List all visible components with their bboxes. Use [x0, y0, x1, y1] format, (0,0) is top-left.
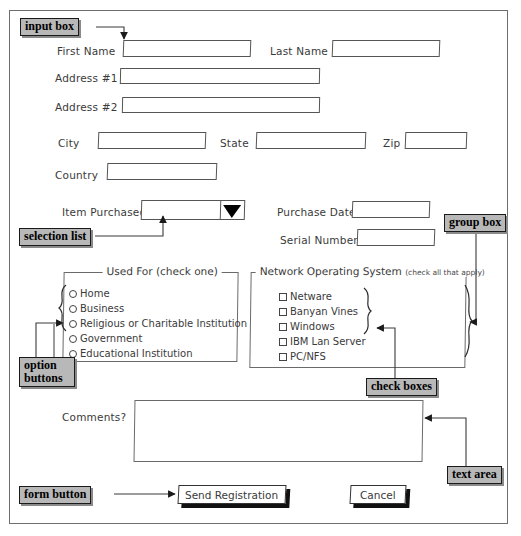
callout-input-box: input box: [20, 18, 79, 36]
checkbox-option-pc-nfs[interactable]: PC/NFS: [279, 351, 326, 362]
label-item-purchased: Item Purchased: [62, 206, 146, 218]
label-zip: Zip: [383, 137, 400, 149]
input-zip[interactable]: [405, 132, 468, 149]
callout-option-buttons-line2: buttons: [24, 372, 70, 385]
radio-option-government[interactable]: Government: [69, 333, 142, 344]
checkbox-label-ibm-lan-server: IBM Lan Server: [290, 336, 366, 347]
label-country: Country: [55, 169, 98, 181]
callout-check-boxes: check boxes: [366, 378, 437, 396]
callout-form-button: form button: [19, 486, 91, 504]
callout-input-box-label: input box: [25, 19, 74, 33]
label-city: City: [58, 137, 79, 149]
radio-label-home: Home: [80, 288, 110, 299]
input-last-name[interactable]: [332, 40, 441, 57]
radio-option-religious[interactable]: Religious or Charitable Institution: [69, 318, 247, 329]
select-divider: [220, 201, 222, 219]
callout-group-box: group box: [444, 214, 506, 232]
input-country[interactable]: [107, 163, 218, 180]
label-comments: Comments?: [62, 411, 126, 423]
radio-button-icon[interactable]: [69, 290, 77, 298]
input-purchase-date[interactable]: [352, 201, 431, 218]
input-first-name[interactable]: [123, 40, 252, 57]
radio-option-educational[interactable]: Educational Institution: [69, 348, 192, 359]
label-serial-number: Serial Number: [280, 234, 358, 246]
callout-option-buttons-line1: option: [24, 359, 70, 372]
label-last-name: Last Name: [270, 45, 328, 57]
checkbox-option-windows[interactable]: Windows: [279, 321, 335, 332]
checkbox-icon[interactable]: [279, 353, 287, 361]
group-title-network-os-hint: (check all that apply): [405, 268, 485, 277]
group-title-used-for-hint: (check one): [156, 265, 218, 277]
input-address-2[interactable]: [122, 97, 320, 113]
callout-text-area-label: text area: [452, 467, 497, 481]
group-title-used-for: Used For (check one): [103, 265, 222, 277]
checkbox-option-banyan-vines[interactable]: Banyan Vines: [279, 306, 358, 317]
label-address-2: Address #2: [55, 101, 118, 113]
cancel-button-label: Cancel: [360, 489, 396, 501]
callout-text-area: text area: [447, 466, 502, 484]
label-address-1: Address #1: [55, 72, 118, 84]
label-first-name: First Name: [57, 45, 115, 57]
mockup-canvas: First Name Last Name Address #1 Address …: [0, 0, 521, 536]
checkbox-label-banyan-vines: Banyan Vines: [290, 306, 358, 317]
radio-label-business: Business: [80, 303, 124, 314]
radio-button-icon[interactable]: [69, 320, 77, 328]
label-purchase-date: Purchase Date: [277, 206, 356, 218]
radio-button-icon[interactable]: [69, 335, 77, 343]
group-title-used-for-main: Used For: [107, 265, 153, 277]
radio-label-educational: Educational Institution: [80, 348, 192, 359]
input-city[interactable]: [98, 132, 207, 149]
textarea-comments[interactable]: [134, 400, 424, 462]
input-state[interactable]: [256, 132, 367, 149]
checkbox-option-ibm-lan-server[interactable]: IBM Lan Server: [279, 336, 366, 347]
radio-option-business[interactable]: Business: [69, 303, 124, 314]
checkbox-icon[interactable]: [279, 308, 287, 316]
callout-selection-list: selection list: [19, 228, 91, 246]
checkbox-label-netware: Netware: [290, 291, 332, 302]
radio-label-religious: Religious or Charitable Institution: [80, 318, 247, 329]
label-state: State: [220, 137, 249, 149]
callout-option-buttons: option buttons: [19, 357, 75, 387]
dropdown-arrow-icon[interactable]: [223, 205, 241, 218]
group-title-network-os-main: Network Operating System: [260, 265, 402, 277]
send-registration-button-label: Send Registration: [185, 489, 278, 501]
radio-option-home[interactable]: Home: [69, 288, 110, 299]
radio-button-icon[interactable]: [69, 305, 77, 313]
callout-check-boxes-label: check boxes: [371, 379, 432, 393]
radio-label-government: Government: [80, 333, 142, 344]
checkbox-icon[interactable]: [279, 323, 287, 331]
select-item-purchased[interactable]: [141, 200, 246, 220]
checkbox-option-netware[interactable]: Netware: [279, 291, 332, 302]
callout-selection-list-label: selection list: [24, 229, 86, 243]
send-registration-button[interactable]: Send Registration: [178, 485, 287, 504]
checkbox-label-windows: Windows: [290, 321, 335, 332]
callout-group-box-label: group box: [449, 215, 501, 229]
group-title-network-os: Network Operating System (check all that…: [256, 265, 489, 277]
checkbox-label-pc-nfs: PC/NFS: [290, 351, 326, 362]
cancel-button[interactable]: Cancel: [350, 485, 407, 504]
checkbox-icon[interactable]: [279, 338, 287, 346]
checkbox-icon[interactable]: [279, 293, 287, 301]
input-address-1[interactable]: [120, 68, 320, 84]
input-serial-number[interactable]: [357, 229, 436, 246]
callout-form-button-label: form button: [24, 487, 86, 501]
